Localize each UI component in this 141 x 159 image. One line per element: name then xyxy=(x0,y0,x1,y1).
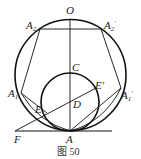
label-A2: A2 xyxy=(25,19,37,33)
figure-caption: 图 50 xyxy=(57,146,80,157)
label-A: A xyxy=(65,133,73,145)
label-O: O xyxy=(66,4,74,16)
label-D: D xyxy=(72,98,81,110)
label-A1-prime: A1′ xyxy=(120,89,133,103)
label-C: C xyxy=(72,61,80,73)
label-F: F xyxy=(13,133,21,145)
geometry-diagram: O A2 A2′ C E E′ D A1 A1′ F A 图 50 xyxy=(0,0,141,159)
label-E: E xyxy=(34,103,42,115)
label-E-prime: E′ xyxy=(94,79,105,91)
large-circle xyxy=(15,20,126,131)
chord-A2-A1 xyxy=(21,29,40,93)
label-A2-prime: A2′ xyxy=(103,19,116,33)
